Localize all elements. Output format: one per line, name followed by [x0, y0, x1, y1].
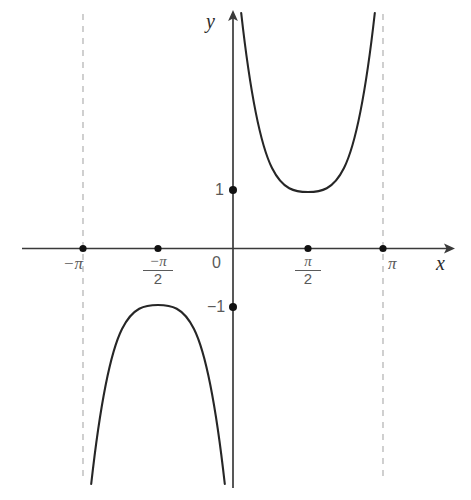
point-y-neg-one — [229, 303, 237, 311]
secant-function-figure: y x −π −π 2 0 π 2 π 1 −1 — [0, 0, 471, 500]
point-half-pi — [304, 245, 311, 252]
point-y-one — [229, 186, 237, 194]
y-axis-label: y — [206, 11, 215, 31]
secant-upper-branch — [241, 13, 375, 192]
secant-lower-branch — [91, 305, 225, 484]
origin-label: 0 — [212, 255, 221, 271]
tick-label-half-pi-numerator: π — [295, 254, 321, 270]
plot-canvas — [0, 0, 471, 500]
tick-label-neg-half-pi: −π 2 — [143, 254, 173, 287]
point-neg-half-pi — [154, 245, 161, 252]
x-axis-label: x — [436, 253, 445, 273]
tick-label-neg-pi: −π — [63, 255, 83, 272]
tick-label-neg-half-pi-denominator: 2 — [143, 270, 173, 287]
tick-label-half-pi: π 2 — [295, 254, 321, 287]
tick-label-neg-half-pi-numerator: −π — [143, 254, 173, 270]
tick-label-neg-one: −1 — [207, 299, 225, 315]
tick-label-one: 1 — [215, 182, 224, 198]
point-neg-pi — [79, 245, 86, 252]
tick-label-pi: π — [388, 255, 397, 272]
point-pi — [379, 245, 386, 252]
tick-label-half-pi-denominator: 2 — [295, 270, 321, 287]
